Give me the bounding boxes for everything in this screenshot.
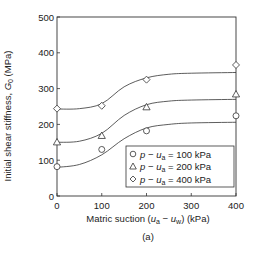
circle-marker-icon — [144, 128, 150, 134]
x-tick-label: 0 — [54, 200, 59, 211]
triangle-marker-icon — [232, 91, 239, 97]
y-axis-label: Initial shear stiffness, G0 (MPa) — [2, 51, 14, 182]
legend-circle-icon — [130, 151, 136, 157]
diamond-marker-icon — [233, 61, 240, 68]
y-tick-label: 200 — [38, 119, 54, 130]
x-tick-label: 100 — [94, 200, 110, 211]
x-tick-label: 200 — [139, 200, 155, 211]
y-tick-label: 100 — [38, 155, 54, 166]
legend-label-100: p − ua = 100 kPa — [139, 149, 212, 161]
legend: p − ua = 100 kPa p − ua = 200 kPa p − ua… — [126, 146, 234, 187]
circle-marker-icon — [99, 146, 105, 152]
circle-marker-icon — [54, 164, 60, 170]
circle-marker-icon — [233, 113, 239, 119]
y-tick-label: 0 — [49, 191, 54, 202]
x-tick-label: 400 — [228, 200, 244, 211]
diamond-marker-icon — [98, 102, 105, 109]
triangle-marker-icon — [98, 132, 105, 138]
y-tick-label: 300 — [38, 83, 54, 94]
x-axis-label: Matric suction (ua − uw) (kPa) — [86, 213, 209, 225]
legend-label-200: p − ua = 200 kPa — [139, 161, 212, 173]
x-tick-label: 300 — [183, 200, 199, 211]
y-tick-label: 400 — [38, 47, 54, 58]
legend-label-400: p − ua = 400 kPa — [139, 174, 212, 186]
figure-caption: (a) — [142, 231, 154, 242]
triangle-marker-icon — [53, 139, 60, 145]
y-tick-label: 500 — [38, 12, 54, 23]
diamond-marker-icon — [54, 105, 61, 112]
chart: 01002003004005000100200300400 Initial sh… — [0, 0, 258, 258]
